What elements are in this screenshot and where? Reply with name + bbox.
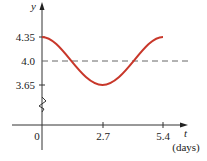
x-axis-label: t (184, 127, 188, 139)
chart-canvas: y 4.35 4.0 3.65 0 2.7 5.4 t (days) (0, 0, 207, 161)
origin-label: 0 (34, 130, 40, 142)
y-axis-label: y (30, 0, 36, 12)
x-axis-unit: (days) (172, 141, 200, 154)
y-tick-label-4.35: 4.35 (16, 31, 36, 43)
y-axis-arrow-icon (40, 2, 45, 10)
y-tick-label-4.0: 4.0 (21, 55, 35, 67)
y-tick-label-3.65: 3.65 (16, 79, 36, 91)
x-tick-label-2.7: 2.7 (96, 130, 110, 142)
x-tick-label-5.4: 5.4 (156, 130, 170, 142)
